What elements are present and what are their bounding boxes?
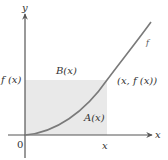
area-diagram: y x 0 x f (x) B(x) A(x) (x, f (x)) f — [0, 0, 168, 160]
origin-label: 0 — [17, 139, 23, 150]
curve-f-label: f — [145, 38, 151, 47]
shaded-rectangle — [25, 80, 107, 135]
region-a-label: A(x) — [83, 112, 105, 123]
region-b-label: B(x) — [55, 65, 77, 76]
point-label: (x, f (x)) — [117, 75, 157, 86]
x-axis-label: x — [155, 129, 161, 140]
y-axis-label: y — [21, 2, 28, 13]
f-of-x-tick-label: f (x) — [0, 74, 21, 85]
x-tick-label: x — [102, 140, 108, 151]
